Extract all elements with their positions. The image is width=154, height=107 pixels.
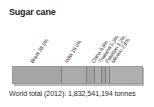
sugar-cane-chart-figure: Sugar cane Brazil 38.3% India 19.0% Chin… bbox=[0, 0, 154, 107]
bar-segment-china bbox=[87, 67, 96, 83]
bar-segment-other bbox=[110, 67, 142, 83]
world-total-annotation: World total (2012): 1,832,541,194 tonnes bbox=[9, 89, 136, 98]
category-label-brazil: Brazil 38.3% bbox=[30, 38, 50, 64]
bar-segment-thailand bbox=[95, 67, 102, 83]
stacked-bar bbox=[12, 66, 143, 84]
category-labels-layer: Brazil 38.3% India 19.0% China 6.6% Thai… bbox=[0, 0, 154, 64]
bar-segment-india bbox=[62, 67, 87, 83]
bar-segment-brazil bbox=[13, 67, 62, 83]
category-label-india: India 19.0% bbox=[64, 39, 83, 64]
